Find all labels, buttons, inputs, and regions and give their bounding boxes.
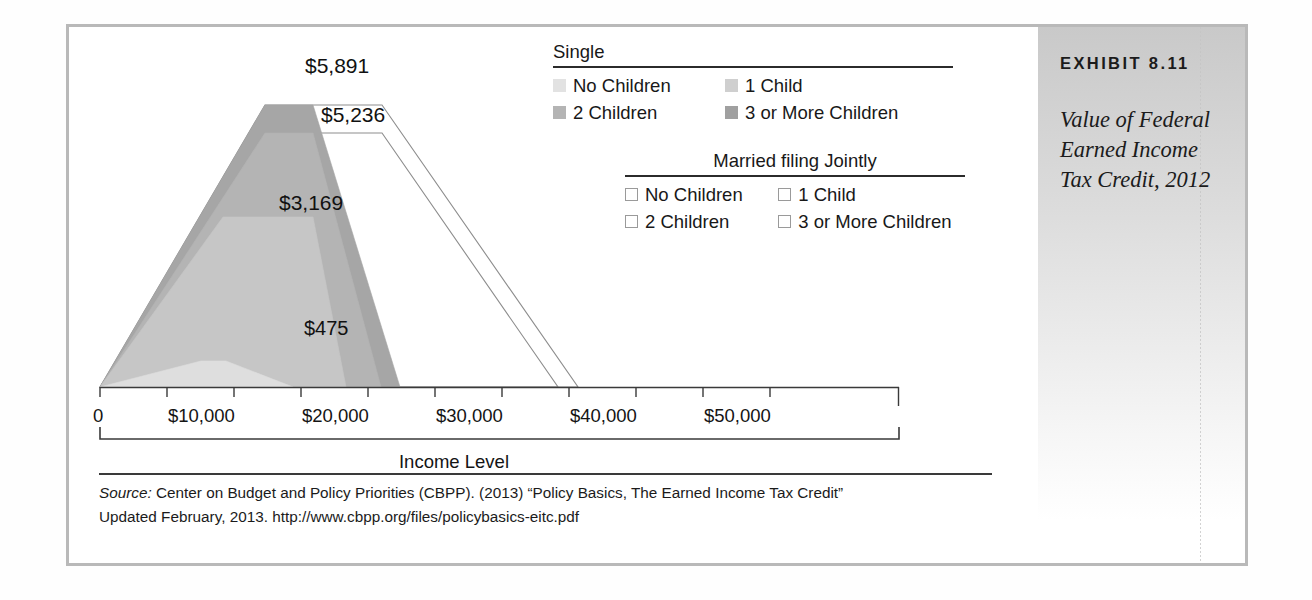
- exhibit-page: $475 $3,169 $5,236 $5,891 0 $10,000 $20,…: [0, 0, 1312, 600]
- legend-label-married-2-children: 2 Children: [645, 210, 729, 233]
- legend-item-married-2-children[interactable]: 2 Children: [625, 210, 778, 233]
- exhibit-title: Value of Federal Earned Income Tax Credi…: [1060, 105, 1232, 195]
- legend-item-married-no-children[interactable]: No Children: [625, 183, 778, 206]
- legend-item-single-3-or-more-children[interactable]: 3 or More Children: [725, 101, 925, 124]
- legend-label-single-3-or-more-children: 3 or More Children: [745, 101, 898, 124]
- legend-label-married-no-children: No Children: [645, 183, 743, 206]
- legend-single-heading: Single: [553, 41, 953, 66]
- legend-swatch-icon-single-1-child: [725, 79, 738, 92]
- legend-swatch-icon-married-2-children: [625, 215, 638, 228]
- value-label-3-or-more-children: $5,891: [305, 54, 369, 78]
- value-label-1-child: $3,169: [279, 191, 343, 215]
- x-axis-ticks: [100, 387, 770, 397]
- legend-married-heading: Married filing Jointly: [625, 150, 965, 175]
- x-tick-label-2: $20,000: [302, 405, 369, 427]
- legend-swatch-icon-single-2-children: [553, 106, 566, 119]
- exhibit-sidebar: EXHIBIT 8.11 Value of Federal Earned Inc…: [1038, 27, 1245, 563]
- legend-married-row-2: 2 Children 3 or More Children: [625, 210, 965, 233]
- legend-married-filing-jointly: Married filing Jointly No Children 1 Chi…: [625, 150, 965, 237]
- value-label-no-children: $475: [304, 317, 349, 340]
- legend-item-married-1-child[interactable]: 1 Child: [778, 183, 965, 206]
- legend-item-married-3-or-more-children[interactable]: 3 or More Children: [778, 210, 965, 233]
- legend-item-single-2-children[interactable]: 2 Children: [553, 101, 725, 124]
- legend-label-single-2-children: 2 Children: [573, 101, 657, 124]
- value-label-2-children: $5,236: [321, 103, 385, 127]
- x-tick-label-1: $10,000: [168, 405, 235, 427]
- legend-swatch-icon-married-3-or-more-children: [778, 215, 791, 228]
- legend-swatch-icon-single-3-or-more-children: [725, 106, 738, 119]
- legend-single: Single No Children 1 Child 2 Child: [553, 41, 953, 128]
- source-note: Source: Center on Budget and Policy Prio…: [99, 481, 1004, 529]
- legend-label-married-1-child: 1 Child: [798, 183, 856, 206]
- legend-swatch-icon-single-no-children: [553, 79, 566, 92]
- legend-item-single-no-children[interactable]: No Children: [553, 74, 725, 97]
- x-axis-tick-labels: 0 $10,000 $20,000 $30,000 $40,000 $50,00…: [69, 405, 1044, 431]
- source-note-line-1: Center on Budget and Policy Priorities (…: [152, 484, 844, 501]
- x-tick-label-0: 0: [93, 405, 103, 427]
- legend-married-row-1: No Children 1 Child: [625, 183, 965, 206]
- legend-swatch-icon-married-1-child: [778, 188, 791, 201]
- chart-area: $475 $3,169 $5,236 $5,891 0 $10,000 $20,…: [69, 27, 1044, 563]
- legend-single-rule: [553, 66, 953, 68]
- legend-single-row-1: No Children 1 Child: [553, 74, 953, 97]
- legend-label-single-1-child: 1 Child: [745, 74, 803, 97]
- legend-married-rule: [625, 175, 965, 177]
- legend-swatch-icon-married-no-children: [625, 188, 638, 201]
- exhibit-frame: $475 $3,169 $5,236 $5,891 0 $10,000 $20,…: [66, 24, 1248, 566]
- source-note-prefix: Source:: [99, 484, 152, 501]
- legend-item-single-1-child[interactable]: 1 Child: [725, 74, 925, 97]
- source-note-line-2: Updated February, 2013. http://www.cbpp.…: [99, 508, 579, 525]
- x-tick-label-4: $40,000: [570, 405, 637, 427]
- x-axis-title: Income Level: [69, 451, 839, 473]
- x-tick-label-5: $50,000: [704, 405, 771, 427]
- x-tick-label-3: $30,000: [436, 405, 503, 427]
- legend-label-married-3-or-more-children: 3 or More Children: [798, 210, 951, 233]
- legend-single-row-2: 2 Children 3 or More Children: [553, 101, 953, 124]
- source-note-rule: [99, 473, 992, 475]
- legend-label-single-no-children: No Children: [573, 74, 671, 97]
- exhibit-number: EXHIBIT 8.11: [1060, 54, 1190, 73]
